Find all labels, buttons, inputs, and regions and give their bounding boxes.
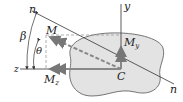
label-n-bottom: n xyxy=(170,83,177,96)
label-beta: β xyxy=(19,30,26,43)
label-n-top: n xyxy=(29,3,36,16)
bending-diagram: n n y z M My Mz C β θ xyxy=(0,0,183,102)
label-y-axis: y xyxy=(123,0,131,13)
label-theta: θ xyxy=(36,45,42,56)
label-centroid: C xyxy=(117,70,126,83)
moment-vector-second-head xyxy=(56,40,62,43)
cross-section xyxy=(70,33,164,96)
beta-arc xyxy=(27,14,36,69)
label-moment: M xyxy=(45,24,58,37)
label-z-axis: z xyxy=(13,64,19,74)
label-mz: Mz xyxy=(43,73,59,87)
